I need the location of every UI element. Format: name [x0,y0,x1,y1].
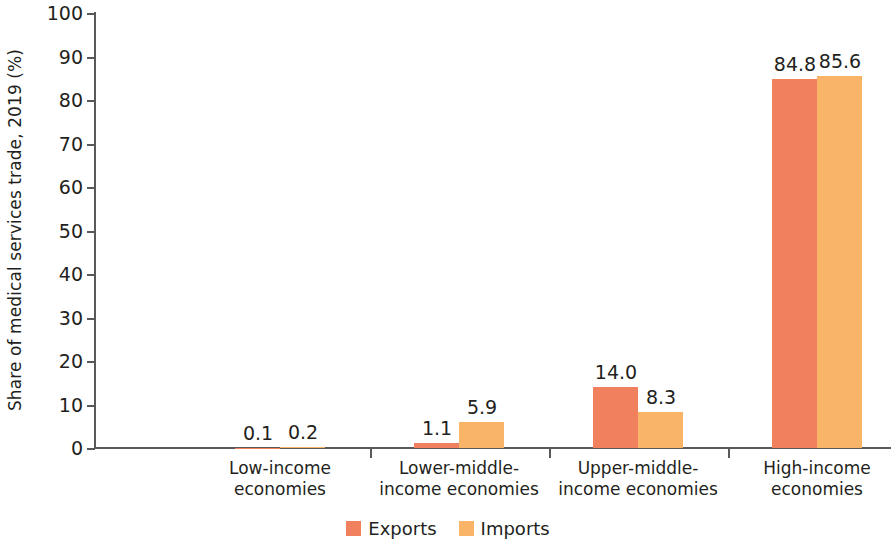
y-axis-tick-label: 80 [59,89,83,111]
y-axis-tick-mark [87,274,95,276]
category-label-line: income economies [359,479,559,500]
bar-group: 14.08.3 [593,13,683,448]
y-axis-tick-label: 90 [59,46,83,68]
category-label-line: Lower-middle- [359,458,559,479]
bar-exports[interactable] [772,79,817,448]
y-axis-tick-label: 0 [71,437,83,459]
category-label-line: Low-income [180,458,380,479]
x-axis-category-label: Low-incomeeconomies [180,458,380,500]
bar-value-label: 8.3 [626,386,696,408]
y-axis-tick-mark [87,144,95,146]
bar-value-label: 14.0 [581,361,651,383]
y-axis-tick-mark [87,57,95,59]
y-axis-tick-mark [87,448,95,450]
y-axis-tick-mark [87,100,95,102]
category-label-line: economies [717,479,896,500]
category-label-line: Upper-middle- [538,458,738,479]
y-axis-tick-label: 70 [59,133,83,155]
y-axis-title-text: Share of medical services trade, 2019 (%… [5,49,25,411]
y-axis-tick-mark [87,13,95,15]
x-axis-tick-mark [370,449,372,458]
y-axis-title: Share of medical services trade, 2019 (%… [0,0,30,460]
category-label-line: economies [180,479,380,500]
legend-swatch-icon [346,521,361,536]
plot-area: 01020304050607080901000.10.21.15.914.08.… [95,13,890,448]
y-axis-tick-label: 20 [59,350,83,372]
x-axis-category-label: High-incomeeconomies [717,458,896,500]
y-axis-tick-mark [87,187,95,189]
category-label-line: High-income [717,458,896,479]
legend-label: Imports [481,518,550,539]
y-axis-tick-mark [87,231,95,233]
bar-imports[interactable] [638,412,683,448]
y-axis-tick-label: 100 [47,2,83,24]
y-axis-tick-label: 40 [59,263,83,285]
x-axis-tick-mark [549,449,551,458]
y-axis-tick-mark [87,318,95,320]
x-axis-tick-mark [728,449,730,458]
legend-label: Exports [368,518,436,539]
bar-value-label: 5.9 [447,396,517,418]
bar-value-label: 85.6 [805,50,875,72]
y-axis-tick-label: 30 [59,307,83,329]
bar-group: 84.885.6 [772,13,862,448]
bar-exports[interactable] [414,443,459,448]
bar-imports[interactable] [817,76,862,448]
x-axis-category-label: Lower-middle-income economies [359,458,559,500]
bar-imports[interactable] [280,447,325,448]
bar-group: 1.15.9 [414,13,504,448]
bar-value-label: 0.2 [268,421,338,443]
bar-imports[interactable] [459,422,504,448]
legend-swatch-icon [459,521,474,536]
y-axis-tick-label: 60 [59,176,83,198]
y-axis-tick-mark [87,361,95,363]
y-axis-tick-label: 10 [59,394,83,416]
legend-item[interactable]: Exports [346,518,436,539]
legend-item[interactable]: Imports [459,518,550,539]
y-axis-tick-mark [87,405,95,407]
y-axis-tick-label: 50 [59,220,83,242]
x-axis-category-label: Upper-middle-income economies [538,458,738,500]
bar-group: 0.10.2 [235,13,325,448]
category-label-line: income economies [538,479,738,500]
bar-chart: Share of medical services trade, 2019 (%… [0,0,896,549]
chart-legend: ExportsImports [0,518,896,539]
